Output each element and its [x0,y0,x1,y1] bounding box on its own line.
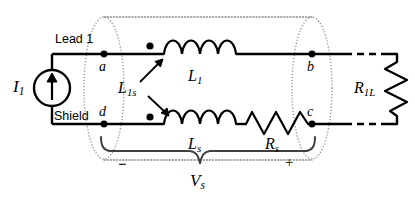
polarity-minus-label: − [118,157,127,172]
node-label-b: b [307,60,314,74]
lead1-label: Lead 1 [55,33,93,46]
polarity-dot-bottom [146,113,153,120]
node-dot-c [309,121,316,128]
circuit-diagram: I1 Lead 1 Shield a b c d L1 Ls L1s Rs R1… [0,0,415,202]
voltage-label: Vs [190,172,205,189]
resistor-load-label: R1L [354,80,375,96]
wire-load-bottom [388,116,397,124]
schematic-canvas [0,0,415,202]
shield-label: Shield [54,110,89,123]
resistor-load-R1L [385,62,407,116]
inductor-shield-Ls [164,111,236,125]
mutual-coupling-arrow-up [140,59,163,82]
polarity-plus-label: + [285,155,293,170]
polarity-dot-top [146,42,153,49]
mutual-coupling-arrow-down [148,96,169,116]
node-label-d: d [99,105,106,119]
node-label-a: a [99,60,106,74]
wire-load-top [388,54,397,62]
inductor-shield-label: Ls [188,136,201,152]
inductor-lead-label: L1 [188,68,202,84]
mutual-inductance-label: L1s [118,80,137,96]
node-dot-a [101,51,108,58]
shield-ellipse-right [292,17,332,159]
node-dot-b [309,51,316,58]
node-label-c: c [307,105,313,119]
inductor-lead-L1 [164,41,236,55]
resistor-shield-label: Rs [265,136,279,152]
current-source-label: I1 [13,78,24,95]
resistor-shield-Rs [246,112,308,134]
node-dot-d [101,121,108,128]
voltage-brace [101,137,315,163]
